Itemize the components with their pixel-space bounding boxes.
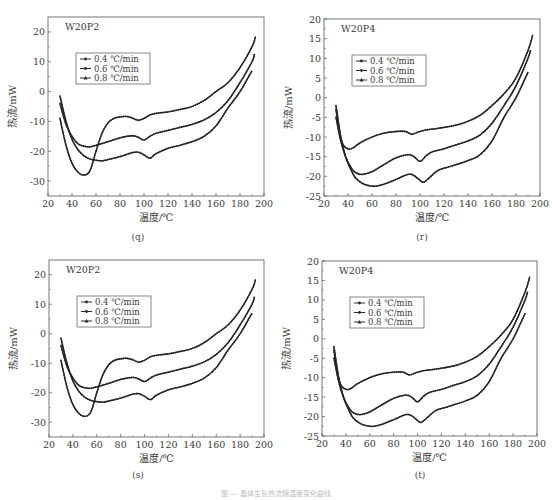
chart-title: W20P2 — [66, 264, 100, 275]
y-tick-label: 20 — [34, 269, 46, 280]
y-tick-label: -25 — [306, 191, 321, 202]
y-tick-label: 5 — [315, 73, 321, 84]
x-tick-label: 140 — [183, 439, 201, 450]
y-tick-label: 5 — [313, 314, 319, 325]
y-tick-label: -20 — [31, 387, 46, 398]
y-axis-label: 热流/mW — [280, 326, 292, 370]
circle-marker-icon — [85, 310, 88, 313]
x-tick-label: 100 — [408, 438, 426, 449]
y-tick-label: 10 — [307, 294, 319, 305]
x-tick-label: 80 — [114, 198, 126, 209]
series-line — [59, 71, 252, 162]
x-tick-label: 100 — [135, 198, 153, 209]
y-tick-label: -15 — [306, 151, 321, 162]
y-tick-label: 10 — [309, 53, 321, 64]
chart-s-svg: 20406080100120140160180200-30-20-1001020… — [0, 240, 276, 480]
x-tick-label: 40 — [342, 198, 354, 209]
x-tick-label: 160 — [480, 438, 498, 449]
x-tick-label: 20 — [42, 198, 54, 209]
y-tick-label: 20 — [307, 256, 319, 267]
x-tick-label: 120 — [435, 198, 453, 209]
chart-panel-t: 20406080100120140160180200-25-20-15-10-5… — [276, 240, 552, 480]
chart-s-sublabel: (s) — [118, 470, 158, 480]
chart-t-sublabel: (t) — [400, 470, 440, 480]
x-axis-label: 温度/℃ — [415, 211, 450, 223]
y-tick-label: -15 — [304, 392, 319, 403]
legend-label: 0.6 ℃/min — [368, 308, 413, 318]
circle-marker-icon — [358, 302, 361, 305]
x-tick-label: 140 — [183, 198, 201, 209]
y-tick-label: 0 — [39, 86, 45, 97]
y-tick-label: 15 — [309, 33, 321, 44]
x-tick-label: 180 — [504, 438, 522, 449]
x-tick-label: 180 — [231, 198, 249, 209]
chart-q-svg: 20406080100120140160180200-30-20-1001020… — [0, 0, 276, 240]
figure-caption: 图 — 晶体生长热流随温度变化曲线 — [0, 488, 552, 498]
plot-frame — [322, 261, 537, 436]
x-tick-label: 40 — [67, 439, 79, 450]
y-tick-label: 20 — [309, 14, 321, 25]
y-tick-label: -5 — [312, 112, 321, 123]
plot-frame — [49, 260, 264, 437]
y-tick-label: -20 — [306, 171, 321, 182]
x-axis-label: 温度/℃ — [139, 452, 174, 464]
x-tick-label: 60 — [366, 198, 378, 209]
legend-label: 0.4 ℃/min — [370, 56, 415, 66]
chart-panel-r: 20406080100120140160180200-25-20-15-10-5… — [276, 0, 552, 240]
x-tick-label: 200 — [255, 439, 273, 450]
x-tick-label: 180 — [507, 198, 525, 209]
x-axis-label: 温度/℃ — [412, 451, 447, 463]
x-tick-label: 80 — [388, 438, 400, 449]
y-tick-label: 20 — [33, 26, 45, 37]
legend-label: 0.6 ℃/min — [94, 64, 139, 74]
x-tick-label: 120 — [159, 198, 177, 209]
chart-legend: 0.4 ℃/min0.6 ℃/min0.8 ℃/min — [77, 296, 151, 327]
legend-label: 0.8 ℃/min — [94, 73, 139, 83]
legend-label: 0.6 ℃/min — [370, 66, 415, 76]
y-tick-label: 15 — [307, 275, 319, 286]
y-axis-label: 热流/mW — [7, 326, 19, 370]
chart-title: W20P2 — [65, 21, 99, 32]
chart-title: W20P4 — [341, 23, 375, 34]
y-tick-label: -10 — [31, 358, 46, 369]
chart-title: W20P4 — [339, 265, 373, 276]
chart-panel-s: 20406080100120140160180200-30-20-1001020… — [0, 240, 276, 480]
y-tick-label: 10 — [33, 56, 45, 67]
x-tick-label: 200 — [528, 438, 546, 449]
x-tick-label: 100 — [411, 198, 429, 209]
chart-legend: 0.4 ℃/min0.6 ℃/min0.8 ℃/min — [76, 53, 150, 84]
x-tick-label: 200 — [255, 198, 273, 209]
x-tick-label: 80 — [115, 439, 127, 450]
chart-legend: 0.4 ℃/min0.6 ℃/min0.8 ℃/min — [352, 55, 426, 86]
y-tick-label: -25 — [304, 431, 319, 442]
x-tick-label: 120 — [432, 438, 450, 449]
x-tick-label: 20 — [43, 439, 55, 450]
y-tick-label: 0 — [315, 92, 321, 103]
y-tick-label: -20 — [30, 146, 45, 157]
y-axis-label: 热流/mW — [282, 85, 294, 129]
circle-marker-icon — [85, 301, 88, 304]
legend-label: 0.8 ℃/min — [95, 316, 140, 326]
circle-marker-icon — [84, 67, 87, 70]
x-tick-label: 60 — [90, 198, 102, 209]
x-tick-label: 200 — [531, 198, 549, 209]
circle-marker-icon — [360, 60, 363, 63]
circle-marker-icon — [358, 311, 361, 314]
x-tick-label: 140 — [456, 438, 474, 449]
y-tick-label: -5 — [310, 353, 319, 364]
legend-label: 0.6 ℃/min — [95, 307, 140, 317]
y-tick-label: -20 — [304, 411, 319, 422]
x-tick-label: 80 — [390, 198, 402, 209]
plot-frame — [48, 17, 264, 196]
chart-t-svg: 20406080100120140160180200-25-20-15-10-5… — [276, 240, 552, 480]
y-tick-label: 0 — [40, 328, 46, 339]
x-tick-label: 60 — [364, 438, 376, 449]
chart-panel-q: 20406080100120140160180200-30-20-1001020… — [0, 0, 276, 240]
x-tick-label: 40 — [66, 198, 78, 209]
plot-frame — [324, 19, 540, 196]
x-tick-label: 160 — [483, 198, 501, 209]
legend-label: 0.4 ℃/min — [368, 298, 413, 308]
chart-r-svg: 20406080100120140160180200-25-20-15-10-5… — [276, 0, 552, 240]
x-tick-label: 160 — [207, 439, 225, 450]
y-tick-label: 10 — [34, 299, 46, 310]
